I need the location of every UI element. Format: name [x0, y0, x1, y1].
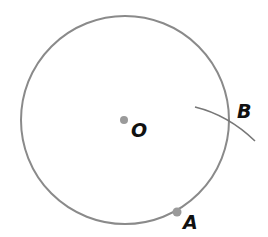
point-o-dot — [120, 116, 128, 124]
diagram-canvas: O A B — [0, 0, 268, 237]
label-o: O — [131, 119, 147, 141]
geometry-diagram: O A B — [0, 0, 268, 237]
point-a-dot — [173, 208, 182, 217]
label-a: A — [181, 211, 198, 233]
label-b: B — [237, 100, 251, 122]
